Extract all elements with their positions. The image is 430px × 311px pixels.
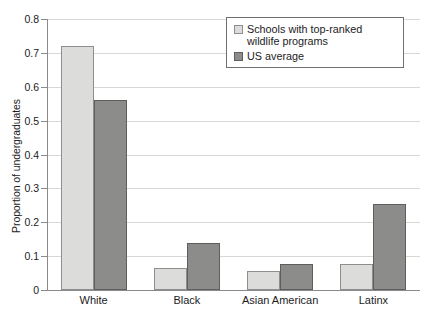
y-axis-tick-label: 0.5 xyxy=(5,115,39,127)
y-axis-tick-label: 0.3 xyxy=(5,182,39,194)
y-axis-tick-label: 0.8 xyxy=(5,13,39,25)
y-axis-tick-mark xyxy=(41,155,47,156)
y-axis-tick-mark xyxy=(41,188,47,189)
y-axis-tick-label: 0 xyxy=(5,284,39,296)
bar-latinx-series1 xyxy=(373,204,406,290)
bar-asian-american-series0 xyxy=(247,271,280,290)
bar-chart: Proportion of undergraduates 00.10.20.30… xyxy=(0,0,430,311)
legend-label-us-average: US average xyxy=(247,50,304,62)
legend-item-schools: Schools with top-ranked wildlife program… xyxy=(234,23,397,48)
y-axis-tick-labels: 00.10.20.30.40.50.60.70.8 xyxy=(0,0,39,311)
chart-legend: Schools with top-ranked wildlife program… xyxy=(226,17,404,68)
y-axis-tick-mark xyxy=(41,87,47,88)
y-axis-tick-mark xyxy=(41,222,47,223)
x-axis-category-label: White xyxy=(80,294,108,306)
x-axis-category-label: Asian American xyxy=(242,294,318,306)
y-axis-tick-mark xyxy=(41,290,47,291)
bar-white-series0 xyxy=(61,46,94,290)
y-axis-tick-mark xyxy=(41,19,47,20)
bar-asian-american-series1 xyxy=(280,264,313,290)
legend-swatch-icon-schools xyxy=(234,25,243,34)
y-axis-tick-label: 0.1 xyxy=(5,250,39,262)
y-axis-line xyxy=(47,19,48,291)
legend-label-schools: Schools with top-ranked wildlife program… xyxy=(247,23,397,48)
y-axis-tick-mark xyxy=(41,121,47,122)
legend-swatch-icon-us-average xyxy=(234,52,243,61)
y-axis-tick-label: 0.6 xyxy=(5,81,39,93)
x-axis-line xyxy=(41,290,420,291)
x-axis-category-label: Latinx xyxy=(359,294,388,306)
y-axis-tick-label: 0.2 xyxy=(5,216,39,228)
x-axis-category-label: Black xyxy=(173,294,200,306)
legend-item-us-average: US average xyxy=(234,50,397,62)
y-axis-tick-mark xyxy=(41,256,47,257)
gridline xyxy=(47,87,420,88)
bar-black-series1 xyxy=(187,243,220,290)
bar-latinx-series0 xyxy=(340,264,373,290)
y-axis-tick-label: 0.7 xyxy=(5,47,39,59)
bar-black-series0 xyxy=(154,268,187,290)
bar-white-series1 xyxy=(94,100,127,290)
y-axis-tick-label: 0.4 xyxy=(5,149,39,161)
y-axis-tick-mark xyxy=(41,53,47,54)
